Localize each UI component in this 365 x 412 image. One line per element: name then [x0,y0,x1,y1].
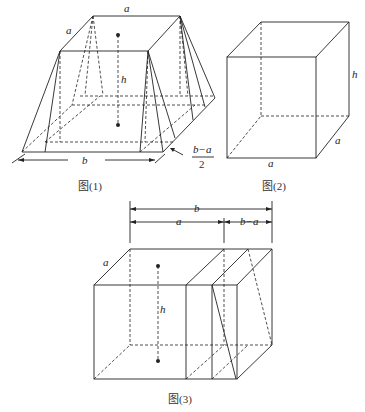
label-height-h: h [121,73,127,85]
caption-fig2: 图(2) [262,180,286,193]
label-side-a: a [66,24,72,36]
geometry-diagram: a a h b b−a 2 图(1) h a a 图(2) [0,0,365,412]
label-height-h: h [160,303,166,315]
label-total-b: b [194,202,200,214]
label-part-a: a [176,215,182,227]
figure-2-labels: h a a 图(2) [262,68,358,193]
label-height-h: h [352,68,358,80]
label-width-a: a [268,157,274,169]
label-part-b-minus-a: b−a [240,215,259,227]
label-offset-numerator: b−a [193,143,212,155]
label-side-a: a [103,256,109,268]
label-depth-a: a [335,134,341,146]
label-offset-denominator: 2 [199,158,205,170]
figure-1-labels: a a h b b−a 2 图(1) [66,2,214,193]
caption-fig3: 图(3) [168,393,192,406]
label-top-a: a [124,2,130,14]
caption-fig1: 图(1) [78,180,102,193]
figure-2 [227,22,349,158]
figure-1 [12,16,215,163]
figure-3 [94,201,272,379]
label-base-b: b [82,154,88,166]
